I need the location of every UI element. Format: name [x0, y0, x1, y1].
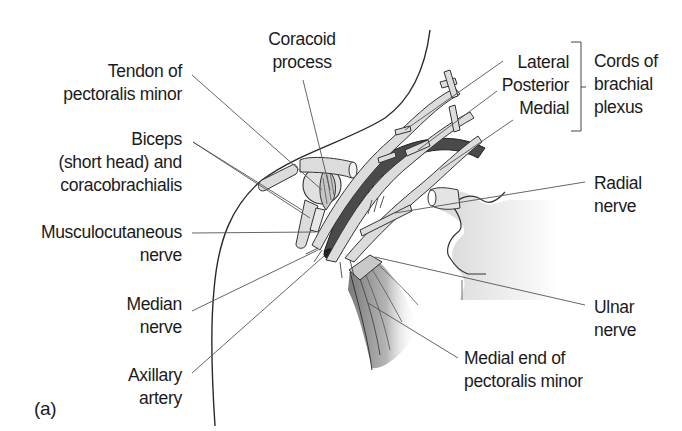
label-cords-of-brachial-plexus: Cords of brachial plexus — [594, 50, 658, 119]
panel-label: (a) — [34, 397, 56, 420]
label-tendon-pec-minor: Tendon of pectoralis minor — [63, 60, 182, 106]
label-radial-nerve: Radial nerve — [594, 172, 642, 218]
cords-bracket — [571, 42, 586, 131]
label-cords: Lateral Posterior Medial — [502, 51, 569, 120]
label-axillary-artery: Axillary artery — [128, 364, 182, 410]
label-ulnar-nerve: Ulnar nerve — [594, 296, 636, 342]
leader-median — [192, 250, 318, 311]
label-biceps: Biceps (short head) and coracobrachialis — [58, 128, 182, 197]
label-medial-end-pec-minor: Medial end of pectoralis minor — [464, 347, 583, 393]
label-coracoid-process: Coracoid process — [262, 28, 342, 74]
label-median-nerve: Median nerve — [126, 293, 182, 339]
leader-biceps-2 — [193, 142, 310, 218]
label-musculocutaneous-nerve: Musculocutaneous nerve — [41, 221, 182, 267]
leader-tendon — [192, 75, 322, 190]
leader-musculocutaneous — [192, 232, 316, 233]
